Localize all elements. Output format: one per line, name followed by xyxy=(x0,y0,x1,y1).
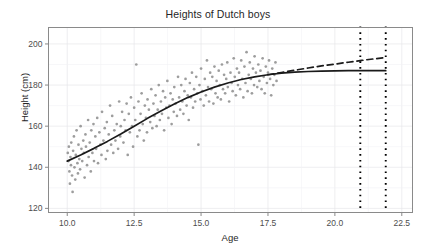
grid-lines xyxy=(49,28,413,213)
y-tick-label: 180 xyxy=(28,80,42,90)
chart-figure: Heights of Dutch boys Height (cm) Age 12… xyxy=(0,0,436,251)
x-tick-label: 10.0 xyxy=(59,218,76,228)
plot-area: 12014016018020010.012.515.017.520.022.5 xyxy=(0,0,436,251)
x-tick-label: 22.5 xyxy=(394,218,411,228)
x-tick-label: 20.0 xyxy=(327,218,344,228)
y-tick-label: 200 xyxy=(28,39,42,49)
x-tick-label: 12.5 xyxy=(126,218,143,228)
y-tick-label: 140 xyxy=(28,162,42,172)
x-tick-label: 15.0 xyxy=(193,218,210,228)
x-tick-label: 17.5 xyxy=(260,218,277,228)
y-tick-label: 160 xyxy=(28,121,42,131)
y-tick-label: 120 xyxy=(28,203,42,213)
